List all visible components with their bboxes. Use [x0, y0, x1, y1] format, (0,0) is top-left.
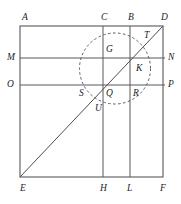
point-label-l: L: [126, 183, 132, 193]
point-label-k: K: [135, 63, 143, 73]
geometry-canvas: A C B D M N O P E H L F G K Q R S T U: [0, 0, 181, 204]
point-label-o: O: [7, 79, 14, 89]
point-label-q: Q: [106, 88, 113, 98]
point-label-e: E: [19, 183, 26, 193]
point-label-n: N: [167, 52, 175, 62]
diagonal-line-ed: [20, 26, 163, 177]
point-label-s: S: [79, 88, 84, 98]
point-label-u: U: [95, 103, 103, 113]
geometry-figure: A C B D M N O P E H L F G K Q R S T U: [0, 0, 181, 204]
point-label-d: D: [160, 12, 168, 22]
point-label-b: B: [128, 12, 134, 22]
point-label-c: C: [101, 12, 108, 22]
point-label-a: A: [21, 12, 28, 22]
point-label-m: M: [6, 52, 16, 62]
point-label-p: P: [167, 79, 174, 89]
point-label-r: R: [132, 88, 139, 98]
point-label-h: H: [99, 183, 108, 193]
point-label-t: T: [144, 30, 150, 40]
point-label-g: G: [106, 44, 113, 54]
point-label-f: F: [159, 183, 166, 193]
